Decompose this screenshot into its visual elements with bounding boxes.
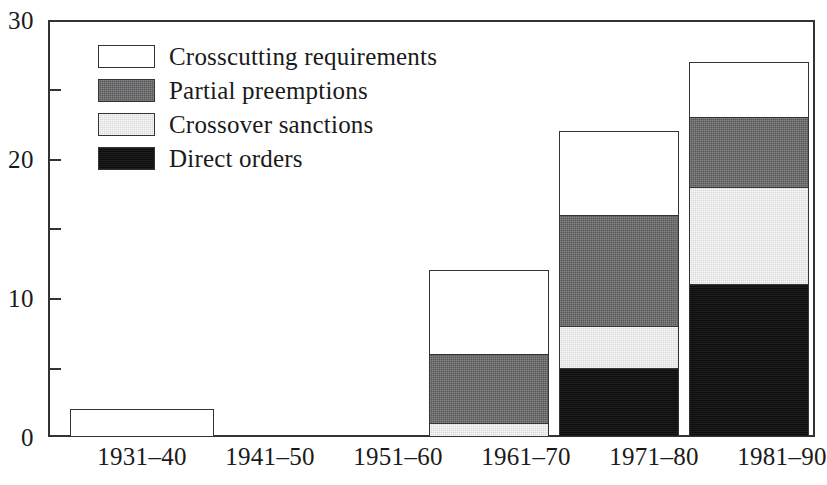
x-axis-tick-label-1971-80: 1971–80 [609,443,699,471]
legend-item-crossover[interactable]: Crossover sanctions [98,110,437,138]
legend-label: Partial preemptions [169,78,368,103]
bar-segment-partial[interactable] [689,117,809,187]
x-axis-tick-label-1981-90: 1981–90 [737,443,827,471]
legend-label: Direct orders [169,146,303,171]
legend-swatch-direct-icon [98,147,155,170]
bar-segment-crossover[interactable] [689,187,809,284]
legend-item-partial[interactable]: Partial preemptions [98,76,437,104]
bar-1961-70[interactable] [429,270,549,437]
bar-segment-crossover[interactable] [559,326,679,368]
legend-swatch-crosscutting-icon [98,45,155,68]
legend-item-direct[interactable]: Direct orders [98,144,437,172]
bar-1981-90[interactable] [689,62,809,437]
y-axis-tick-label: 0 [21,425,34,450]
y-axis-tick-label: 10 [8,286,34,311]
legend-item-crosscutting[interactable]: Crosscutting requirements [98,42,437,70]
legend-swatch-partial-icon [98,79,155,102]
y-axis-tick-label: 30 [8,8,34,33]
bar-segment-partial[interactable] [559,215,679,326]
bar-1931-40[interactable] [70,409,214,437]
bar-segment-crosscutting[interactable] [559,131,679,214]
bar-segment-crossover[interactable] [429,423,549,437]
bar-segment-partial[interactable] [429,354,549,424]
bar-segment-crosscutting[interactable] [689,62,809,118]
x-axis: 1931–40 1941–50 1951–60 1961–70 1971–80 … [48,443,815,485]
x-axis-tick-label-1931-40: 1931–40 [97,443,187,471]
bar-segment-crosscutting[interactable] [429,270,549,353]
bar-1971-80[interactable] [559,131,679,437]
legend: Crosscutting requirements Partial preemp… [98,42,437,172]
legend-label: Crossover sanctions [169,112,373,137]
x-axis-tick-label-1941-50: 1941–50 [225,443,315,471]
x-axis-tick-label-1951-60: 1951–60 [353,443,443,471]
x-axis-tick-label-1961-70: 1961–70 [481,443,571,471]
legend-label: Crosscutting requirements [169,44,437,69]
y-axis-tick-label: 20 [8,147,34,172]
bar-segment-crosscutting[interactable] [70,409,214,437]
bar-segment-direct[interactable] [689,284,809,437]
y-axis: 30 20 10 0 [0,0,42,485]
bar-segment-direct[interactable] [559,368,679,438]
legend-swatch-crossover-icon [98,113,155,136]
